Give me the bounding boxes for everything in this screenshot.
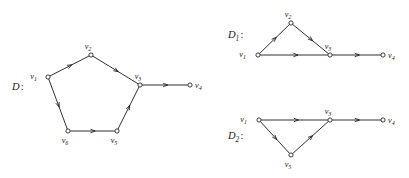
graph-label-D: D:: [11, 81, 24, 92]
edge-D2-v1-v5: [260, 122, 289, 154]
edge-line: [50, 56, 89, 76]
edge-D-v5-v3: [118, 87, 139, 129]
graph-label-D2: D2:: [227, 130, 243, 144]
vertex-D1-v4[interactable]: [381, 53, 385, 57]
vertex-label-D1-v4: v4: [388, 51, 395, 61]
graph-label-D1: D1:: [227, 29, 243, 43]
edge-D1-v1-v3: [260, 53, 328, 56]
edge-D1-v1-v2: [260, 24, 290, 53]
edge-line: [260, 24, 290, 53]
vertex-D2-v3[interactable]: [328, 118, 332, 122]
edge-D2-v5-v3: [293, 121, 329, 153]
vertex-D2-v1[interactable]: [257, 118, 261, 122]
vertex-label-D-v4: v4: [195, 81, 202, 91]
vertex-D-v5[interactable]: [115, 129, 119, 133]
edge-line: [293, 24, 329, 53]
vertex-D2-v5[interactable]: [289, 153, 293, 157]
vertex-D-v3[interactable]: [138, 83, 142, 87]
vertex-D-v2[interactable]: [89, 53, 93, 57]
vertex-D-v6[interactable]: [66, 129, 70, 133]
vertex-D-v1[interactable]: [46, 75, 50, 79]
vertex-label-D1-v2: v2: [285, 10, 292, 20]
vertex-label-D2-v1: v1: [240, 115, 247, 125]
vertex-label-D2-v4: v4: [388, 116, 395, 126]
edge-D1-v3-v4: [332, 53, 381, 56]
figure-canvas: v1v2v3v4v5v6D:v1v2v3v4D1:v1v3v4v5D2:: [0, 0, 409, 178]
vertex-label-D-v2: v2: [85, 42, 92, 52]
vertex-label-D-v3: v3: [135, 72, 142, 82]
vertex-label-D-v5: v5: [111, 136, 118, 146]
edge-D-v1-v2: [50, 56, 89, 76]
edge-line: [93, 56, 138, 84]
vertex-label-D-v1: v1: [30, 72, 37, 82]
directed-graph-figure: v1v2v3v4v5v6D:v1v2v3v4D1:v1v3v4v5D2:: [0, 0, 409, 178]
vertex-D1-v2[interactable]: [289, 21, 293, 25]
edge-D-v1-v6: [49, 79, 68, 129]
edge-D-v3-v4: [142, 83, 188, 86]
edge-D2-v3-v4: [332, 118, 381, 121]
vertex-label-D1-v1: v1: [239, 50, 246, 60]
graph-D2: v1v3v4v5D2:: [227, 107, 395, 170]
edge-line: [260, 122, 289, 154]
edge-D2-v1-v3: [261, 118, 328, 121]
vertex-label-D1-v3: v3: [325, 42, 332, 52]
vertex-D2-v4[interactable]: [381, 118, 385, 122]
edge-line: [49, 79, 68, 129]
vertex-label-D2-v3: v3: [325, 107, 332, 117]
vertex-label-D-v6: v6: [62, 136, 69, 146]
vertex-D1-v1[interactable]: [256, 53, 260, 57]
edge-D-v6-v5: [70, 129, 115, 132]
graph-D: v1v2v3v4v5v6D:: [11, 42, 202, 146]
vertex-label-D2-v5: v5: [285, 160, 292, 170]
graph-D1: v1v2v3v4D1:: [227, 10, 395, 61]
edge-D1-v2-v3: [293, 24, 329, 53]
edge-line: [293, 121, 329, 153]
vertex-D1-v3[interactable]: [328, 53, 332, 57]
edge-line: [118, 87, 139, 129]
edge-D-v2-v3: [93, 56, 138, 84]
vertex-D-v4[interactable]: [188, 83, 192, 87]
